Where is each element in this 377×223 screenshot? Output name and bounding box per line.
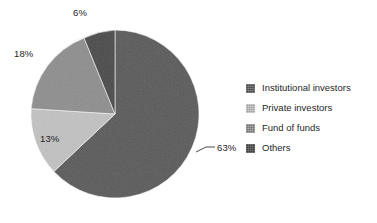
legend-item-private-investors[interactable]: Private investors bbox=[246, 98, 377, 118]
legend-swatch-icon-others bbox=[246, 144, 255, 153]
legend-swatch-icon-fund-of-funds bbox=[246, 124, 255, 133]
pie-grain-texture bbox=[31, 30, 199, 198]
chart-legend: Institutional investors Private investor… bbox=[246, 78, 377, 158]
legend-item-fund-of-funds[interactable]: Fund of funds bbox=[246, 118, 377, 138]
legend-item-others[interactable]: Others bbox=[246, 138, 377, 158]
leader-line-institutional bbox=[196, 147, 215, 152]
slice-label-private-investors: 13% bbox=[40, 134, 59, 144]
slice-label-institutional-investors: 63% bbox=[217, 143, 236, 153]
legend-item-institutional-investors[interactable]: Institutional investors bbox=[246, 78, 377, 98]
slice-label-fund-of-funds: 18% bbox=[14, 49, 33, 59]
legend-label-fund-of-funds: Fund of funds bbox=[262, 123, 320, 133]
legend-swatch-icon-institutional-investors bbox=[246, 84, 255, 93]
pie-plot-area: 6% 18% 13% 63% bbox=[0, 0, 240, 223]
pie-svg bbox=[0, 0, 240, 223]
legend-swatch-icon-private-investors bbox=[246, 104, 255, 113]
legend-label-private-investors: Private investors bbox=[262, 103, 332, 113]
legend-label-institutional-investors: Institutional investors bbox=[262, 83, 351, 93]
slice-label-others: 6% bbox=[73, 8, 87, 18]
legend-label-others: Others bbox=[262, 143, 291, 153]
pie-chart-figure: 6% 18% 13% 63% Institutional investors P… bbox=[0, 0, 377, 223]
